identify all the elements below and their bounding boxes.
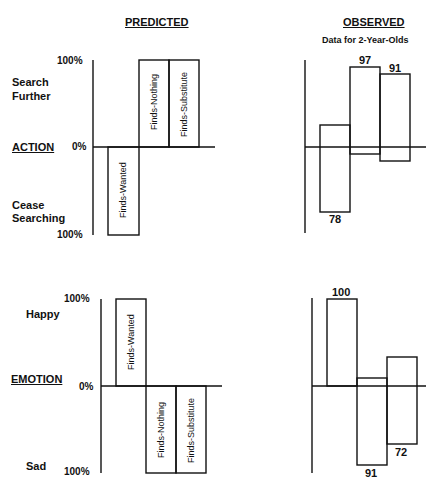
- bar-finds-substitute: [387, 357, 417, 444]
- bar-label-action-wanted: Finds-Wanted: [118, 162, 128, 218]
- charts-canvas: Finds-Wanted Finds-Nothing Finds-Substit…: [0, 0, 436, 492]
- bar-label-emotion-substitute: Finds-Substitute: [186, 398, 196, 463]
- bar-label-action-nothing: Finds-Nothing: [149, 74, 159, 130]
- bar-finds-substitute: [380, 74, 410, 161]
- bar-label-emotion-wanted: Finds-Wanted: [126, 314, 136, 370]
- bar-label-action-substitute: Finds-Substitute: [179, 72, 189, 137]
- bar-finds-nothing: [350, 67, 380, 154]
- observed-action-chart: [305, 60, 426, 233]
- bar-finds-wanted: [320, 125, 350, 212]
- observed-emotion-chart: [312, 298, 426, 473]
- bar-finds-nothing: [357, 378, 387, 465]
- bar-label-emotion-nothing: Finds-Nothing: [156, 402, 166, 458]
- bar-finds-wanted: [327, 299, 357, 386]
